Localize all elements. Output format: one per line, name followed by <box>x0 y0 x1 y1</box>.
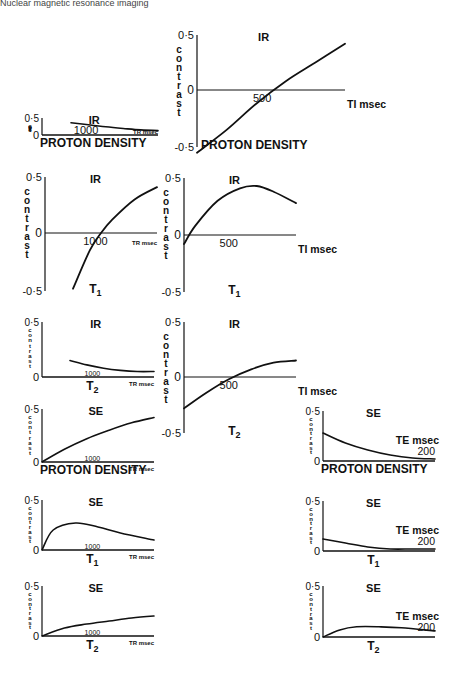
y-tick-bottom: -0·5 <box>161 286 181 298</box>
chart-panel-se-t1-te: 0·50contrastSETE msec200T1 <box>306 496 440 569</box>
chart-subtitle: T2 <box>86 379 98 395</box>
y-axis-label-contrast: contrast <box>309 416 313 455</box>
chart-panel-se-pd-tr: 0·50contrastSE1000TR msecPROTON DENSITY <box>25 404 155 477</box>
svg-text:t: t <box>310 449 312 455</box>
y-tick-top: 0·5 <box>25 113 40 124</box>
chart-subtitle: PROTON DENSITY <box>40 136 146 150</box>
y-tick-bottom: -0·5 <box>161 427 181 439</box>
x-axis-label: TR msec <box>132 240 158 246</box>
x-tick-500: 500 <box>220 237 238 249</box>
svg-text:t: t <box>29 624 31 630</box>
x-axis-label: TR msec <box>129 381 155 387</box>
data-curve <box>70 361 154 372</box>
chart-title: IR <box>229 318 240 330</box>
x-tick-1000: 1000 <box>85 629 101 636</box>
chart-title: IR <box>90 318 101 330</box>
y-axis-label-contrast: contrast <box>28 414 32 456</box>
y-tick-zero: 0 <box>314 455 320 467</box>
y-tick-top: 0·5 <box>25 581 40 592</box>
y-tick-top: 0·5 <box>306 406 321 417</box>
chart-panel-ir-pd-tr: 0·50contrastIR1000TR msecPROTON DENSITY <box>25 113 159 150</box>
y-axis-label-contrast: contrast <box>28 591 32 630</box>
y-tick-zero: 0 <box>174 228 181 242</box>
y-axis-label-contrast: contrast <box>176 44 182 118</box>
chart-panel-ir-t1-tr: 0·50-0·5contrastIR1000TR msecT1 <box>22 171 157 298</box>
y-axis-label-contrast: contrast <box>28 123 32 133</box>
x-axis-label: TI msec <box>298 243 337 255</box>
chart-panel-se-t2-tr: 0·50contrastSE1000TR msecT2 <box>25 581 155 654</box>
svg-text:t: t <box>29 363 31 369</box>
y-tick-zero: 0 <box>33 456 39 468</box>
chart-subtitle: T1 <box>86 552 98 568</box>
y-tick-zero: 0 <box>33 630 39 642</box>
y-tick-top: 0·5 <box>306 496 321 507</box>
y-tick-zero: 0 <box>187 83 194 97</box>
chart-subtitle: T1 <box>228 283 240 299</box>
y-axis-label-contrast: contrast <box>163 187 169 261</box>
y-tick-top: 0·5 <box>306 581 321 592</box>
x-tick-500: 500 <box>220 379 238 391</box>
chart-panel-ir-pd-ti: 0·50-0·5contrastIR500TI msecPROTON DENSI… <box>174 29 386 153</box>
y-tick-top: 0·5 <box>26 171 42 183</box>
svg-text:t: t <box>29 538 31 544</box>
chart-subtitle: T1 <box>367 553 379 569</box>
chart-title: SE <box>366 497 381 509</box>
chart-panel-ir-t1-ti: 0·50-0·5contrastIR500TI msecT1 <box>161 172 337 299</box>
data-curve <box>184 361 296 409</box>
chart-subtitle: T2 <box>367 639 379 655</box>
chart-title: IR <box>258 31 269 43</box>
x-tick-1000: 1000 <box>85 455 101 462</box>
y-tick-top: 0·5 <box>165 316 181 328</box>
chart-panel-se-t2-te: 0·50contrastSETE msec200T2 <box>306 581 440 655</box>
svg-text:t: t <box>310 539 312 545</box>
chart-title: SE <box>366 407 381 419</box>
y-axis-label-contrast: contrast <box>28 505 32 544</box>
y-tick-top: 0·5 <box>165 172 181 184</box>
x-axis-label: TI msec <box>347 98 386 110</box>
chart-title: IR <box>229 174 240 186</box>
y-tick-zero: 0 <box>33 371 39 383</box>
y-tick-zero: 0 <box>33 544 39 556</box>
chart-subtitle: PROTON DENSITY <box>321 462 427 476</box>
y-tick-top: 0·5 <box>178 29 194 41</box>
y-tick-zero: 0 <box>314 631 320 643</box>
x-tick-200: 200 <box>417 535 435 547</box>
x-axis-label: TR msec <box>129 554 155 560</box>
y-tick-top: 0·5 <box>25 404 40 415</box>
y-tick-top: 0·5 <box>25 495 40 506</box>
chart-title: IR <box>90 173 101 185</box>
y-tick-zero: 0 <box>35 226 42 240</box>
chart-subtitle: T2 <box>228 424 240 440</box>
chart-panel-se-t1-tr: 0·50contrastSE1000TR msecT1 <box>25 495 155 568</box>
x-axis-label: TI msec <box>298 385 337 397</box>
y-tick-top: 0·5 <box>25 317 40 328</box>
chart-title: SE <box>366 582 381 594</box>
y-axis-label-contrast: contrast <box>28 327 32 369</box>
svg-text:t: t <box>29 450 31 456</box>
y-tick-bottom: -0·5 <box>22 285 42 297</box>
svg-text:t: t <box>29 127 31 133</box>
figure-canvas: 0·50contrastIR1000TR msecPROTON DENSITY0… <box>0 0 474 676</box>
chart-title: SE <box>88 582 103 594</box>
y-tick-zero: 0 <box>314 545 320 557</box>
y-axis-label-contrast: contrast <box>24 186 30 260</box>
chart-title: SE <box>88 405 103 417</box>
y-axis-label-contrast: contrast <box>309 506 313 545</box>
chart-panel-ir-t2-tr: 0·50contrastIR1000TR msecT2 <box>25 317 155 395</box>
x-tick-1000: 1000 <box>85 370 101 377</box>
chart-subtitle: T2 <box>86 638 98 654</box>
chart-title: SE <box>88 496 103 508</box>
y-tick-bottom: -0·5 <box>174 141 194 153</box>
chart-subtitle: T1 <box>89 282 101 298</box>
x-tick-1000: 1000 <box>85 543 101 550</box>
y-axis-label-contrast: contrast <box>163 331 169 405</box>
y-tick-zero: 0 <box>174 370 181 384</box>
y-axis-label-contrast: contrast <box>309 591 313 631</box>
chart-subtitle: PROTON DENSITY <box>40 463 146 477</box>
y-tick-zero: 0 <box>33 129 39 141</box>
chart-subtitle: PROTON DENSITY <box>201 138 307 152</box>
chart-panel-se-pd-te: 0·50contrastSETE msec200PROTON DENSITY <box>306 406 440 476</box>
x-axis-label: TR msec <box>129 640 155 646</box>
svg-text:t: t <box>310 625 312 631</box>
x-tick-200: 200 <box>417 445 435 457</box>
